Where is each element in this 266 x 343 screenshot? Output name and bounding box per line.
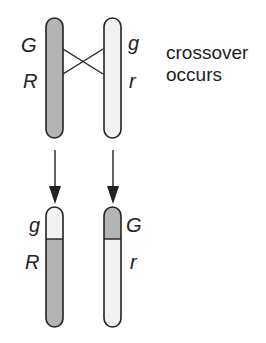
- arrow-down-icon-right: [107, 150, 119, 204]
- arrow-down-icon-left: [49, 150, 61, 204]
- bottom-right-label-upper: G: [126, 214, 142, 236]
- bottom-right-chromosome: [104, 207, 121, 327]
- top-right-label-upper: g: [128, 32, 139, 54]
- bottom-left-chromosome: [46, 207, 63, 327]
- annotation-line1: crossover: [166, 42, 249, 63]
- crossover-diagram: G R g r crossover occurs g R G r: [0, 0, 266, 343]
- top-right-chromosome: [104, 18, 121, 138]
- bottom-right-label-lower: r: [130, 251, 138, 273]
- top-left-label-upper: G: [21, 34, 37, 56]
- bottom-left-label-lower: R: [25, 251, 39, 273]
- bottom-left-label-upper: g: [29, 214, 40, 236]
- annotation-line2: occurs: [166, 64, 222, 85]
- top-left-chromosome: [46, 18, 63, 138]
- top-left-label-lower: R: [23, 70, 37, 92]
- top-right-label-lower: r: [129, 70, 137, 92]
